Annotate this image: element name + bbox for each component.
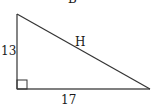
horizontal-leg-label: 17 — [61, 93, 76, 105]
right-angle-marker — [17, 80, 27, 89]
top-label-cut: B — [68, 0, 77, 6]
hypotenuse — [17, 14, 150, 89]
vertical-leg-label: 13 — [1, 44, 16, 58]
triangle-diagram: B 13 H 17 — [0, 0, 158, 105]
hypotenuse-label: H — [75, 35, 85, 49]
